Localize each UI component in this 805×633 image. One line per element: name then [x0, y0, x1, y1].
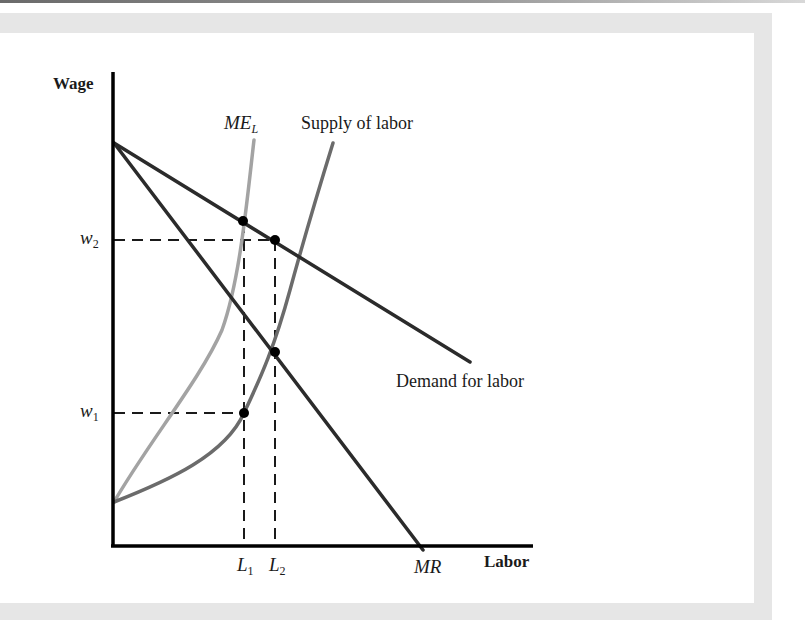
x-tick-l1: L1: [237, 555, 254, 577]
me-l-label-main: ME: [224, 112, 251, 133]
y-tick-w1-sub: 1: [93, 410, 99, 424]
demand-line: [114, 143, 470, 362]
point-demand-w2: [270, 235, 280, 245]
y-tick-w1-main: w: [80, 400, 93, 421]
me-l-label: MEL: [224, 113, 258, 135]
x-tick-l2: L2: [269, 555, 286, 577]
supply-label: Supply of labor: [301, 114, 413, 132]
labor-market-diagram: [0, 0, 805, 633]
me-l-curve: [114, 140, 254, 502]
point-mel-demand: [238, 216, 248, 226]
point-supply-w1: [239, 408, 249, 418]
x-tick-l1-main: L: [237, 554, 248, 575]
y-tick-w2-main: w: [80, 227, 93, 248]
y-tick-w1: w1: [80, 401, 99, 423]
x-tick-l2-sub: 2: [280, 564, 286, 578]
mr-label: MR: [414, 557, 441, 576]
y-tick-w2: w2: [80, 228, 99, 250]
x-tick-l1-sub: 1: [248, 564, 254, 578]
me-l-label-sub: L: [251, 122, 258, 136]
point-supply-mr: [270, 347, 280, 357]
dashed-guides: [114, 222, 275, 546]
x-tick-l2-main: L: [269, 554, 280, 575]
mr-line: [114, 143, 423, 550]
demand-label: Demand for labor: [396, 372, 524, 390]
x-axis-label: Labor: [484, 553, 529, 570]
y-tick-w2-sub: 2: [93, 237, 99, 251]
y-axis-label: Wage: [53, 75, 94, 92]
